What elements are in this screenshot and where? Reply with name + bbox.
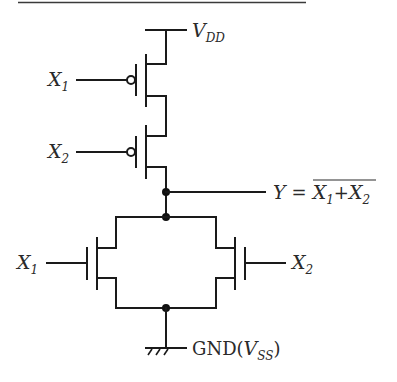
pmos2-input-label: X2 xyxy=(46,140,69,166)
nmos2-input-label: X2 xyxy=(290,251,313,277)
inversion-bubble-icon xyxy=(127,76,135,84)
pmos2-transistor xyxy=(77,126,166,217)
pmos1-transistor xyxy=(77,55,166,136)
ground-label: GND(VSS) xyxy=(192,337,281,363)
pmos1-input-label: X1 xyxy=(46,68,69,94)
inversion-bubble-icon xyxy=(127,148,135,156)
output-expression: Y=X1+X2 xyxy=(273,181,370,207)
ground-icon xyxy=(146,308,186,355)
nmos1-transistor xyxy=(47,217,116,308)
vdd-label: VDD xyxy=(192,19,225,45)
nmos1-input-label: X1 xyxy=(15,251,38,277)
vdd-rail xyxy=(146,30,186,64)
nor-gate-schematic: VDD X1 X2 Y=X1+X2 X1 xyxy=(0,0,397,382)
nmos2-transistor xyxy=(216,217,285,308)
